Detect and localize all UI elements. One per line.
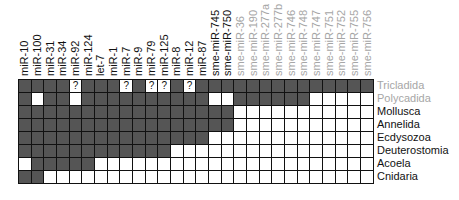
matrix-row — [19, 119, 374, 132]
column-label-text: miR-12 — [184, 41, 195, 76]
matrix-cell — [234, 93, 247, 106]
matrix-cell — [247, 158, 260, 171]
matrix-cell — [133, 80, 146, 93]
matrix-cell — [95, 80, 108, 93]
matrix-cell — [272, 145, 285, 158]
matrix-cell — [120, 171, 133, 184]
matrix-cell — [348, 106, 361, 119]
matrix-cell — [259, 106, 272, 119]
matrix-cell — [171, 145, 184, 158]
matrix-cell — [95, 171, 108, 184]
matrix-cell — [19, 171, 32, 184]
column-label-text: miR-34 — [57, 41, 68, 76]
column-label: sme-miR-36 — [234, 0, 247, 78]
matrix-cell — [297, 158, 310, 171]
matrix-cell — [297, 80, 310, 93]
matrix-cell — [247, 80, 260, 93]
matrix-cell — [259, 171, 272, 184]
matrix-row — [19, 171, 374, 184]
matrix-cell — [196, 80, 209, 93]
matrix-cell — [183, 132, 196, 145]
matrix-cell: ? — [158, 80, 171, 93]
matrix-row — [19, 145, 374, 158]
column-label: miR-100 — [31, 0, 44, 78]
column-label-text: miR-100 — [32, 34, 43, 76]
column-label-text: miR-8 — [171, 47, 182, 76]
matrix-cell — [209, 158, 222, 171]
matrix-cell — [209, 93, 222, 106]
matrix-cell — [133, 145, 146, 158]
matrix-cell — [95, 106, 108, 119]
matrix-cell — [31, 145, 44, 158]
matrix-cell — [310, 106, 323, 119]
column-label: sme-miR-746 — [284, 0, 297, 78]
matrix-cell — [82, 106, 95, 119]
matrix-cell — [323, 171, 336, 184]
column-label: sme-miR-751 — [322, 0, 335, 78]
matrix-cell — [221, 80, 234, 93]
matrix-cell — [145, 171, 158, 184]
matrix-cell — [57, 93, 70, 106]
column-label-text: sme-miR-277b — [272, 4, 283, 76]
matrix-cell — [234, 80, 247, 93]
matrix-cell — [285, 171, 298, 184]
matrix-cell — [247, 93, 260, 106]
row-label: Acoela — [377, 157, 449, 170]
row-label: Ecdysozoa — [377, 131, 449, 144]
matrix-cell — [107, 119, 120, 132]
matrix-cell — [82, 119, 95, 132]
matrix-cell — [310, 158, 323, 171]
matrix-row: ????? — [19, 80, 374, 93]
matrix-cell — [272, 93, 285, 106]
column-label-text: sme-miR-277a — [260, 4, 271, 76]
column-label: miR-12 — [183, 0, 196, 78]
matrix-cell — [120, 106, 133, 119]
matrix-cell — [44, 80, 57, 93]
matrix-cell — [171, 119, 184, 132]
matrix-cell — [259, 158, 272, 171]
matrix-cell — [69, 132, 82, 145]
matrix-cell — [158, 145, 171, 158]
column-label: miR-9 — [132, 0, 145, 78]
column-label: let-7 — [94, 0, 107, 78]
matrix-cell — [247, 171, 260, 184]
column-label: sme-miR-756 — [360, 0, 373, 78]
column-label-text: sme-miR-756 — [361, 10, 372, 76]
matrix-cell — [133, 171, 146, 184]
matrix-cell — [19, 119, 32, 132]
matrix-cell — [69, 158, 82, 171]
matrix-cell — [107, 80, 120, 93]
column-label-text: miR-124 — [82, 34, 93, 76]
column-label: sme-miR-277b — [272, 0, 285, 78]
matrix-cell — [209, 119, 222, 132]
matrix-cell — [82, 80, 95, 93]
matrix-cell — [145, 158, 158, 171]
column-label: miR-31 — [43, 0, 56, 78]
matrix-cell — [158, 132, 171, 145]
row-label: Tricladida — [377, 79, 449, 92]
row-labels: TricladidaPolycadidaMolluscaAnnelidaEcdy… — [377, 79, 449, 183]
matrix-cell — [234, 158, 247, 171]
column-label: sme-miR-190 — [246, 0, 259, 78]
column-label-text: sme-miR-745 — [209, 10, 220, 76]
matrix-cell — [145, 93, 158, 106]
matrix-cell — [44, 106, 57, 119]
matrix-cell — [259, 93, 272, 106]
matrix-cell — [95, 119, 108, 132]
matrix-cell — [19, 158, 32, 171]
matrix-cell — [158, 119, 171, 132]
matrix-cell — [145, 145, 158, 158]
matrix-cell — [57, 158, 70, 171]
matrix-cell — [145, 119, 158, 132]
matrix-cell — [82, 132, 95, 145]
matrix-cell — [323, 119, 336, 132]
matrix-cell — [82, 145, 95, 158]
matrix-cell — [133, 106, 146, 119]
column-label-text: miR-87 — [196, 41, 207, 76]
column-label-text: sme-miR-751 — [323, 10, 334, 76]
matrix-cell — [285, 80, 298, 93]
matrix-cell — [133, 132, 146, 145]
row-label: Polycadida — [377, 92, 449, 105]
matrix-cell — [310, 145, 323, 158]
column-label: sme-miR-750 — [221, 0, 234, 78]
